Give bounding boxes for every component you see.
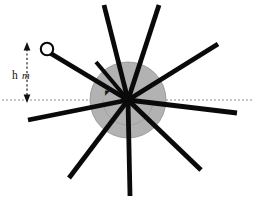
- spoke-down: [128, 100, 130, 196]
- physics-diagram-canvas: ◤ h m: [0, 0, 255, 202]
- spoke-group: [28, 5, 237, 196]
- height-label-unit: m: [22, 70, 30, 81]
- dimension-arrowhead-up: [24, 42, 31, 51]
- point-mass-ring: [41, 43, 53, 55]
- wheel-spoke-figure: ◤ h m: [0, 0, 255, 202]
- dimension-arrowhead-down: [24, 95, 31, 104]
- height-label-symbol: h: [12, 69, 18, 81]
